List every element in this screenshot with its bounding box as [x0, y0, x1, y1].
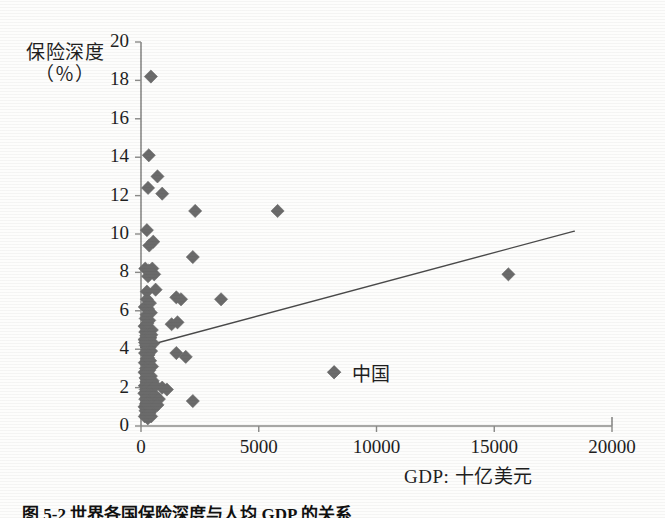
- data-point-marker: [142, 149, 155, 162]
- data-points: [138, 70, 515, 425]
- y-tick-label: 16: [95, 107, 129, 129]
- x-tick-label: 15000: [457, 436, 531, 458]
- data-point-marker: [214, 293, 227, 306]
- figure-caption: 图 5-2 世界各国保险深度与人均 GDP 的关系: [22, 500, 642, 518]
- y-tick-label: 20: [95, 30, 129, 52]
- data-point-marker: [156, 187, 169, 200]
- x-tick-label: 0: [104, 436, 178, 458]
- data-point-marker: [271, 204, 284, 217]
- y-tick-label: 2: [95, 376, 129, 398]
- data-point-marker: [141, 181, 154, 194]
- data-point-marker: [189, 204, 202, 217]
- data-point-marker: [144, 70, 157, 83]
- y-tick-label: 6: [95, 299, 129, 321]
- x-tick-label: 20000: [575, 436, 649, 458]
- data-point-marker: [502, 268, 515, 281]
- annotation-marker-china: [328, 366, 341, 379]
- scatter-chart-figure: 保险深度 （％） GDP: 十亿美元 024681012141618200500…: [0, 0, 665, 518]
- x-tick-label: 10000: [340, 436, 414, 458]
- y-tick-label: 0: [95, 414, 129, 436]
- annotation-markers: [328, 366, 341, 379]
- trendline: [141, 231, 574, 347]
- y-tick-label: 14: [95, 145, 129, 167]
- data-point-marker: [186, 250, 199, 263]
- annotation-label-china: 中国: [352, 359, 390, 386]
- data-point-marker: [151, 170, 164, 183]
- y-tick-label: 4: [95, 337, 129, 359]
- y-tick-label: 8: [95, 260, 129, 282]
- y-tick-label: 12: [95, 184, 129, 206]
- data-point-marker: [186, 394, 199, 407]
- data-point-marker: [140, 224, 153, 237]
- y-tick-label: 10: [95, 222, 129, 244]
- y-tick-label: 18: [95, 68, 129, 90]
- x-axis-label: GDP: 十亿美元: [404, 466, 654, 488]
- x-tick-label: 5000: [222, 436, 296, 458]
